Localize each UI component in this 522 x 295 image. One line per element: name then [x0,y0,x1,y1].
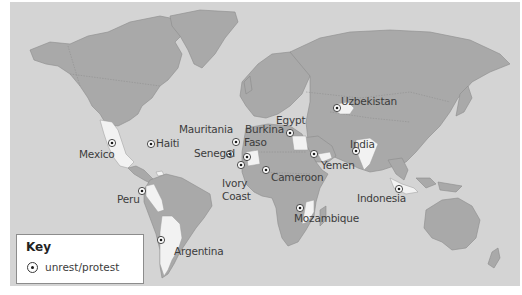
label-ivory: Ivory [222,177,247,189]
label-yemen: Yemen [321,159,355,171]
key-item-unrest: unrest/protest [27,261,119,273]
label-uzbekistan: Uzbekistan [341,95,397,107]
label-mexico: Mexico [79,148,114,160]
label-mozambique: Mozambique [294,212,359,224]
label-faso: Faso [244,136,267,148]
label-india: India [350,138,375,150]
marker-haiti[interactable] [147,140,154,147]
australia [424,198,480,250]
marker-ivory-coast[interactable] [237,161,244,168]
label-mauritania: Mauritania [179,123,233,135]
marker-mexico[interactable] [108,139,115,146]
label-egypt: Egypt [276,114,305,126]
label-cameroon: Cameroon [271,171,323,183]
north-america [30,16,185,126]
marker-egypt[interactable] [286,129,293,136]
world-map: Mexico Haiti Mauritania Burkina Faso Sen… [10,2,520,286]
marker-uzbekistan[interactable] [333,104,340,111]
marker-argentina[interactable] [157,236,164,243]
label-coast: Coast [222,190,251,202]
label-haiti: Haiti [156,137,179,149]
marker-cameroon[interactable] [262,166,269,173]
indonesia-islands [416,178,462,192]
map-key-legend: Key unrest/protest [16,234,144,284]
marker-mozambique[interactable] [296,204,303,211]
circled-dot-marker-icon [27,262,38,273]
egypt-country [292,136,308,150]
marker-burkina-faso[interactable] [243,153,250,160]
label-argentina: Argentina [174,245,223,257]
label-senegal: Senegal [194,147,235,159]
mexico-country [100,120,134,168]
key-item-label: unrest/protest [45,261,119,273]
label-peru: Peru [117,193,140,205]
marker-yemen[interactable] [310,150,317,157]
key-title: Key [26,240,51,254]
label-indonesia: Indonesia [357,192,406,204]
marker-mauritania[interactable] [232,138,239,145]
new-zealand [488,248,500,268]
